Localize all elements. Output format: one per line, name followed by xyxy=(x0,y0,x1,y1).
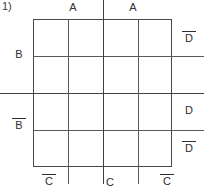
row-divider-3 xyxy=(33,130,204,131)
col-divider-3 xyxy=(138,19,139,184)
col-divider-center xyxy=(103,0,104,184)
axis-label-c-bar-left: C xyxy=(42,174,56,187)
row-divider-1 xyxy=(33,56,204,57)
axis-label-b: B xyxy=(12,49,26,60)
axis-label-c-bar-right: C xyxy=(160,174,174,187)
karnaugh-map-figure: 1) A A B B D D D C xyxy=(0,0,204,193)
axis-label-c: C xyxy=(103,177,117,188)
axis-label-a-right: A xyxy=(126,2,140,13)
axis-label-a-left: A xyxy=(66,2,80,13)
axis-label-d: D xyxy=(182,105,196,116)
axis-label-d-bar-bottom: D xyxy=(182,141,196,154)
row-divider-center xyxy=(0,93,204,94)
axis-label-b-bar: B xyxy=(12,118,26,131)
col-divider-1 xyxy=(68,19,69,184)
axis-label-d-bar-top: D xyxy=(182,31,196,44)
figure-number-label: 1) xyxy=(2,1,12,12)
